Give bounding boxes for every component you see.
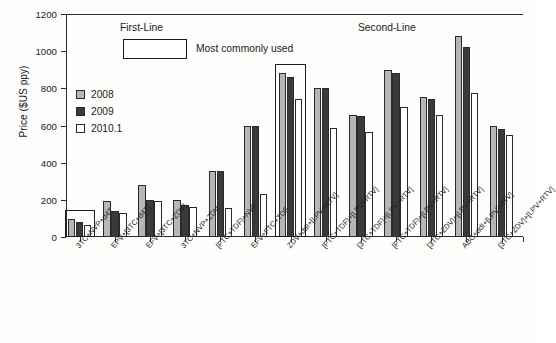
bar (498, 129, 505, 237)
y-axis-tick-label: 400 (41, 157, 57, 168)
second-line-section-label: Second-Line (358, 22, 416, 33)
bar (471, 93, 478, 237)
legend-label: 2008 (91, 89, 114, 100)
series-legend: 200820092010.1 (76, 86, 154, 137)
bar (365, 132, 372, 237)
legend-item: 2009 (76, 103, 154, 120)
y-axis-label: Price ($US ppy) (18, 32, 29, 172)
bar (252, 126, 259, 238)
x-axis-end-tick-mark (523, 237, 524, 242)
y-axis-tick-mark (61, 237, 66, 238)
legend-label: 2010.1 (91, 123, 122, 134)
legend-swatch (76, 90, 85, 99)
most-commonly-used-label: Most commonly used (196, 43, 293, 54)
bar (428, 99, 435, 237)
bar (506, 135, 513, 237)
bar (436, 115, 443, 237)
legend-swatch (76, 107, 85, 116)
y-axis-tick-label: 800 (41, 83, 57, 94)
y-axis-tick-label: 0 (52, 232, 57, 243)
legend-swatch (76, 124, 85, 133)
y-axis-tick-label: 600 (41, 120, 57, 131)
bar (330, 128, 337, 237)
bar (295, 99, 302, 237)
legend-label: 2009 (91, 106, 114, 117)
first-line-section-label: First-Line (120, 22, 163, 33)
y-axis-tick-label: 1000 (35, 46, 57, 57)
y-axis-tick-label: 1200 (35, 9, 57, 20)
bar (217, 171, 224, 237)
bar (400, 107, 407, 237)
legend-item: 2008 (76, 86, 154, 103)
legend-item: 2010.1 (76, 120, 154, 137)
bar (357, 116, 364, 237)
most-commonly-used-swatch (123, 39, 187, 59)
y-axis-tick-label: 200 (41, 194, 57, 205)
y-axis: 020040060080010001200 (0, 0, 66, 343)
bar (68, 219, 75, 237)
